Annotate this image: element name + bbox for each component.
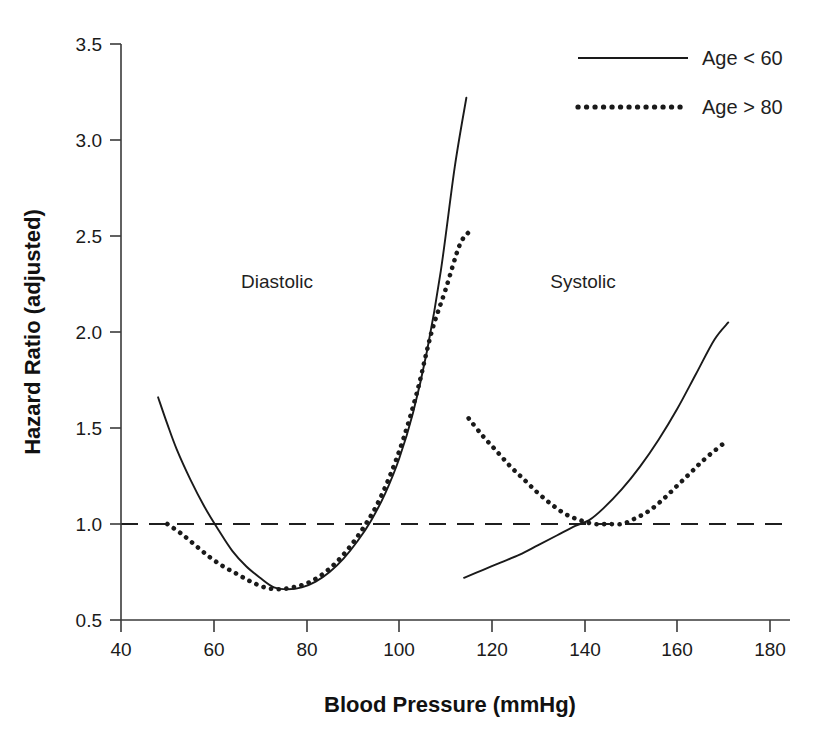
x-tick-label: 160 <box>661 639 693 660</box>
y-tick-label: 0.5 <box>76 610 102 631</box>
curve-diastolic-age-under-60 <box>158 98 466 590</box>
x-tick-label: 180 <box>754 639 786 660</box>
x-axis-title: Blood Pressure (mmHg) <box>324 692 576 717</box>
x-axis-tick-labels: 40 60 80 100 120 140 160 180 <box>110 639 785 660</box>
data-curves <box>158 98 728 590</box>
hazard-ratio-line-chart: 3.5 3.0 2.5 2.0 1.5 1.0 0.5 40 60 80 100… <box>0 0 817 740</box>
x-tick-label: 40 <box>110 639 131 660</box>
y-tick-label: 2.5 <box>76 226 102 247</box>
y-tick-label: 3.0 <box>76 130 102 151</box>
y-tick-label: 1.5 <box>76 418 102 439</box>
annotation-diastolic: Diastolic <box>241 271 313 292</box>
y-tick-label: 3.5 <box>76 34 102 55</box>
annotation-systolic: Systolic <box>550 271 615 292</box>
x-tick-label: 120 <box>476 639 508 660</box>
y-axis-tick-labels: 3.5 3.0 2.5 2.0 1.5 1.0 0.5 <box>76 34 102 631</box>
chart-figure: 3.5 3.0 2.5 2.0 1.5 1.0 0.5 40 60 80 100… <box>0 0 817 740</box>
x-axis-ticks <box>121 620 770 632</box>
x-tick-label: 80 <box>296 639 317 660</box>
y-axis-ticks <box>110 44 121 620</box>
x-tick-label: 60 <box>203 639 224 660</box>
y-tick-label: 1.0 <box>76 514 102 535</box>
y-axis-title: Hazard Ratio (adjusted) <box>20 209 45 455</box>
x-tick-label: 140 <box>569 639 601 660</box>
legend-label-age-under-60: Age < 60 <box>702 47 783 69</box>
y-tick-label: 2.0 <box>76 322 102 343</box>
curve-systolic-age-over-80 <box>469 418 724 524</box>
legend-label-age-over-80: Age > 80 <box>702 96 783 118</box>
chart-legend: Age < 60 Age > 80 <box>578 47 783 118</box>
curve-diastolic-age-over-80 <box>167 232 468 589</box>
x-tick-label: 100 <box>383 639 415 660</box>
curve-systolic-age-under-60 <box>464 322 728 577</box>
